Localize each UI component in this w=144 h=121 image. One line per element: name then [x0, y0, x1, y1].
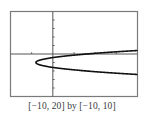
window-caption: [−10, 20] by [−10, 10] [0, 101, 144, 111]
graph-window [0, 0, 144, 100]
